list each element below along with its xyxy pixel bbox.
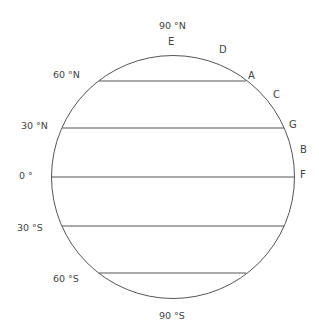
label-30n: 30 °N: [21, 120, 48, 131]
point-label-b: B: [300, 144, 307, 155]
point-label-f: F: [300, 169, 306, 180]
point-label-e: E: [168, 36, 174, 47]
point-label-a: A: [248, 70, 255, 81]
label-60s: 60 °S: [53, 273, 79, 284]
point-label-c: C: [273, 89, 280, 100]
label-equator: 0 °: [19, 170, 33, 181]
label-90n: 90 °N: [159, 20, 186, 31]
label-60n: 60 °N: [53, 69, 80, 80]
label-30s: 30 °S: [17, 222, 43, 233]
label-90s: 90 °S: [159, 310, 185, 321]
diagram-canvas: 90 °N 60 °N 30 °N 0 ° 30 °S 60 °S 90 °S …: [0, 0, 319, 336]
point-label-g: G: [289, 119, 297, 130]
point-label-d: D: [219, 44, 227, 55]
earth-latitude-diagram: 90 °N 60 °N 30 °N 0 ° 30 °S 60 °S 90 °S …: [0, 0, 319, 336]
